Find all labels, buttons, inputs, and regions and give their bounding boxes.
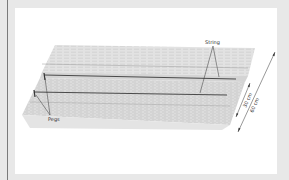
raised-bed-top xyxy=(42,45,255,76)
garden-bed-illustration: String Pegs 30 cm 60 cm xyxy=(0,0,289,180)
label-string: String xyxy=(205,39,220,46)
arrowhead xyxy=(248,83,250,87)
arrowhead xyxy=(238,128,241,132)
arrowhead xyxy=(236,113,238,117)
arrowhead xyxy=(273,52,276,56)
label-pegs: Pegs xyxy=(48,116,60,123)
